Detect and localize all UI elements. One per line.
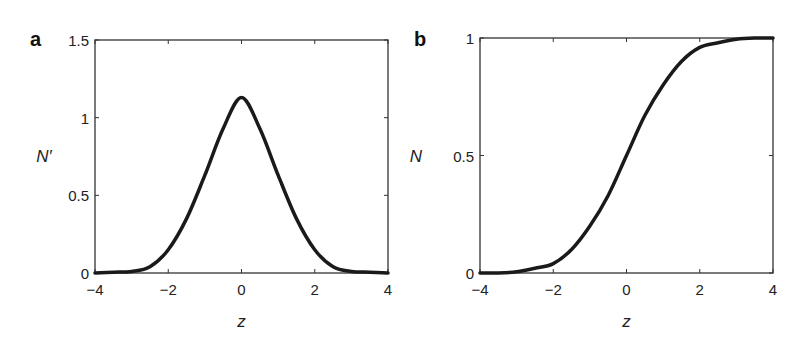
chart-panel-b: b−4−202400.51zN [410,28,777,331]
y-tick-label: 1.5 [68,32,89,49]
curve-a [95,97,388,273]
y-tick-label: 1 [466,30,474,47]
y-tick-label: 1 [81,110,89,127]
y-tick-label: 0.5 [68,187,89,204]
y-tick-label: 0 [466,265,474,282]
axes-frame [95,40,388,273]
x-axis-label: z [621,312,631,331]
x-tick-label: 4 [384,281,392,298]
y-axis-label: N′ [36,147,52,166]
x-tick-label: −2 [545,281,562,298]
x-axis-label: z [236,312,246,331]
y-tick-label: 0.5 [453,148,474,165]
x-tick-label: 4 [769,281,777,298]
x-tick-label: 0 [622,281,630,298]
chart-panel-a: a−4−202400.511.5zN′ [30,28,392,331]
figure: a−4−202400.511.5zN′b−4−202400.51zN [0,0,796,341]
x-tick-label: 0 [237,281,245,298]
x-tick-label: −4 [86,281,103,298]
curve-b [480,38,773,273]
x-tick-label: 2 [696,281,704,298]
y-tick-label: 0 [81,265,89,282]
panel-letter: a [30,28,42,50]
x-tick-label: −2 [160,281,177,298]
x-tick-label: 2 [311,281,319,298]
panel-letter: b [414,28,426,50]
x-tick-label: −4 [471,281,488,298]
y-axis-label: N [410,147,423,166]
